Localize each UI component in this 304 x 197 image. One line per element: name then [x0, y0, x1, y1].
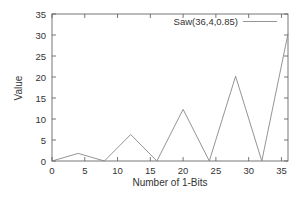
y-tick-label: 20 — [35, 72, 46, 83]
saw-series-line — [52, 34, 288, 161]
x-tick-label: 30 — [243, 165, 254, 176]
x-tick-label: 10 — [112, 165, 123, 176]
x-tick-label: 5 — [82, 165, 87, 176]
y-tick-label: 25 — [35, 51, 46, 62]
x-tick-label: 15 — [145, 165, 156, 176]
x-tick-label: 35 — [276, 165, 287, 176]
x-tick-label: 0 — [49, 165, 54, 176]
y-tick-label: 10 — [35, 114, 46, 125]
line-chart: 05101520253035 05101520253035 Saw(36,4,0… — [0, 0, 304, 197]
x-axis-label: Number of 1-Bits — [132, 177, 207, 188]
legend-label: Saw(36,4,0.85) — [174, 16, 238, 27]
y-axis-ticks: 05101520253035 — [35, 9, 288, 167]
y-tick-label: 15 — [35, 93, 46, 104]
x-axis-ticks: 05101520253035 — [49, 14, 286, 176]
y-tick-label: 30 — [35, 30, 46, 41]
y-tick-label: 0 — [41, 156, 46, 167]
plot-frame — [52, 14, 288, 161]
y-tick-label: 5 — [41, 135, 46, 146]
y-tick-label: 35 — [35, 9, 46, 20]
x-tick-label: 20 — [178, 165, 189, 176]
x-tick-label: 25 — [211, 165, 222, 176]
legend: Saw(36,4,0.85) — [174, 16, 277, 27]
y-axis-label: Value — [13, 75, 24, 100]
